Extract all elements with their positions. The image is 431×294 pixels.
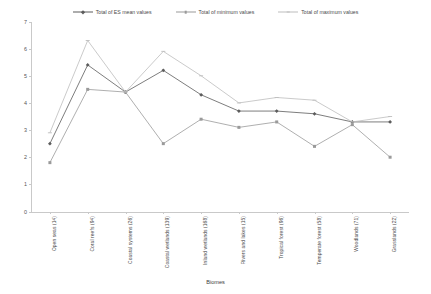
x-axis-tick-label: Grasslands (22) <box>392 216 397 252</box>
series-square <box>48 88 391 164</box>
x-axis-tick-mark <box>88 212 89 215</box>
x-axis-tick-label: Coastal systems (26) <box>128 216 133 264</box>
x-axis-tick-mark <box>315 212 316 215</box>
x-axis-tick-mark <box>277 212 278 215</box>
x-axis-tick-label: Tropical forest (96) <box>279 216 284 259</box>
data-point-marker <box>275 109 279 113</box>
data-point-marker <box>237 126 240 129</box>
data-point-marker <box>48 142 52 146</box>
data-point-marker <box>200 118 203 121</box>
x-axis-tick-mark <box>352 212 353 215</box>
x-axis-tick-mark <box>50 212 51 215</box>
data-point-marker <box>351 123 354 126</box>
series-cross <box>48 41 392 133</box>
data-point-marker <box>86 88 89 91</box>
data-point-marker <box>275 120 278 123</box>
series-line <box>50 89 390 162</box>
x-axis-tick-label: Open seas (14) <box>52 216 57 251</box>
data-point-marker <box>313 145 316 148</box>
chart-figure: Total of ES mean valuesTotal of minimum … <box>0 0 431 294</box>
data-point-marker <box>313 112 317 116</box>
x-axis-tick-mark <box>239 212 240 215</box>
series-layer <box>0 0 431 294</box>
x-axis-tick-label: Woodlands (71) <box>354 216 359 252</box>
data-point-marker <box>162 142 165 145</box>
x-axis-tick-label: Coastal wetlands (139) <box>165 216 170 268</box>
x-axis-tick-mark <box>163 212 164 215</box>
x-axis-tick-mark <box>390 212 391 215</box>
x-axis-tick-mark <box>126 212 127 215</box>
x-axis-tick-mark <box>201 212 202 215</box>
data-point-marker <box>48 161 51 164</box>
x-axis-tick-label: Temperate forest (58) <box>317 216 322 265</box>
x-axis-tick-label: Inland wetlands (168) <box>203 216 208 265</box>
x-axis-tick-label: Rivers and lakes (15) <box>241 216 246 264</box>
series-diamond <box>48 63 392 146</box>
data-point-marker <box>237 109 241 113</box>
data-point-marker <box>388 120 392 124</box>
x-axis-title: Biomes <box>0 279 431 285</box>
x-axis-tick-label: Coral reefs (94) <box>90 216 95 252</box>
data-point-marker <box>389 156 392 159</box>
